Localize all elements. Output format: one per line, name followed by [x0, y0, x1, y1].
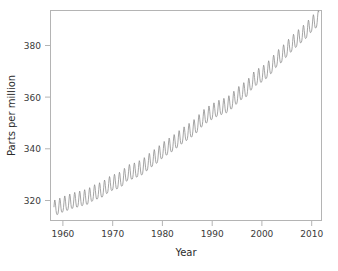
y-tick-label-360: 360	[24, 93, 41, 103]
co2-line-chart: 320 340 360 380 1960 1970 1980 1990 2000…	[0, 0, 338, 271]
x-axis-title: Year	[174, 247, 197, 258]
x-tick-label-1960: 1960	[51, 229, 74, 239]
y-tick-label-380: 380	[24, 41, 41, 51]
y-tick-label-340: 340	[24, 144, 41, 154]
x-tick-label-2010: 2010	[300, 229, 323, 239]
x-tick-label-1980: 1980	[151, 229, 174, 239]
y-axis-title: Parts per million	[6, 75, 17, 156]
x-tick-label-2000: 2000	[250, 229, 273, 239]
x-tick-label-1990: 1990	[201, 229, 224, 239]
y-tick-label-320: 320	[24, 196, 41, 206]
x-tick-label-1970: 1970	[101, 229, 124, 239]
